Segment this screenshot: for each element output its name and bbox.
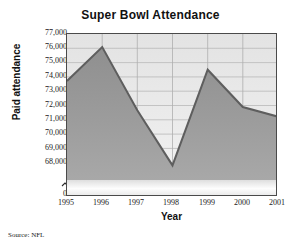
chart-svg <box>67 34 277 196</box>
y-axis-tick-label: 72,000 <box>27 100 67 109</box>
axis-break-band <box>67 180 277 196</box>
x-axis-tick-label: 2000 <box>222 198 262 207</box>
x-axis-title: Year <box>66 211 277 222</box>
y-axis-tick-label: 73,000 <box>27 85 67 94</box>
x-axis-tick-label: 1995 <box>46 198 86 207</box>
chart-container: Super Bowl Attendance Paid attendance 77… <box>0 0 301 248</box>
y-axis-tick-label: 70,000 <box>27 128 67 137</box>
y-axis-title: Paid attendance <box>11 17 27 147</box>
series-area-fill <box>67 47 277 180</box>
y-axis-tick-label: 68,000 <box>27 157 67 166</box>
y-axis-tick-label: 71,000 <box>27 114 67 123</box>
x-axis-tick-label: 2001 <box>257 198 297 207</box>
y-axis-tick-label: 77,000 <box>27 28 67 37</box>
y-axis-tick-label: 69,000 <box>27 143 67 152</box>
plot-area <box>66 33 277 196</box>
x-axis-tick-label: 1999 <box>187 198 227 207</box>
chart-title: Super Bowl Attendance <box>0 8 301 22</box>
x-axis-tick-label: 1997 <box>116 198 156 207</box>
source-note: Source: NFL <box>8 231 44 239</box>
x-axis-tick-label: 1998 <box>151 198 191 207</box>
y-axis-tick-label: 0 <box>27 189 67 198</box>
y-axis-tick-label: 75,000 <box>27 56 67 65</box>
y-axis-tick-label: 76,000 <box>27 42 67 51</box>
x-axis-tick-label: 1996 <box>81 198 121 207</box>
y-axis-tick-label: 74,000 <box>27 71 67 80</box>
